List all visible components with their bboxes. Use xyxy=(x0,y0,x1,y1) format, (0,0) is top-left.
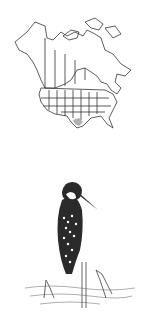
range-highlight xyxy=(73,118,83,126)
range-map xyxy=(5,10,140,130)
kingfisher-illustration xyxy=(20,170,135,310)
kingfisher-icon xyxy=(20,170,135,310)
north-america-map-icon xyxy=(5,10,140,130)
